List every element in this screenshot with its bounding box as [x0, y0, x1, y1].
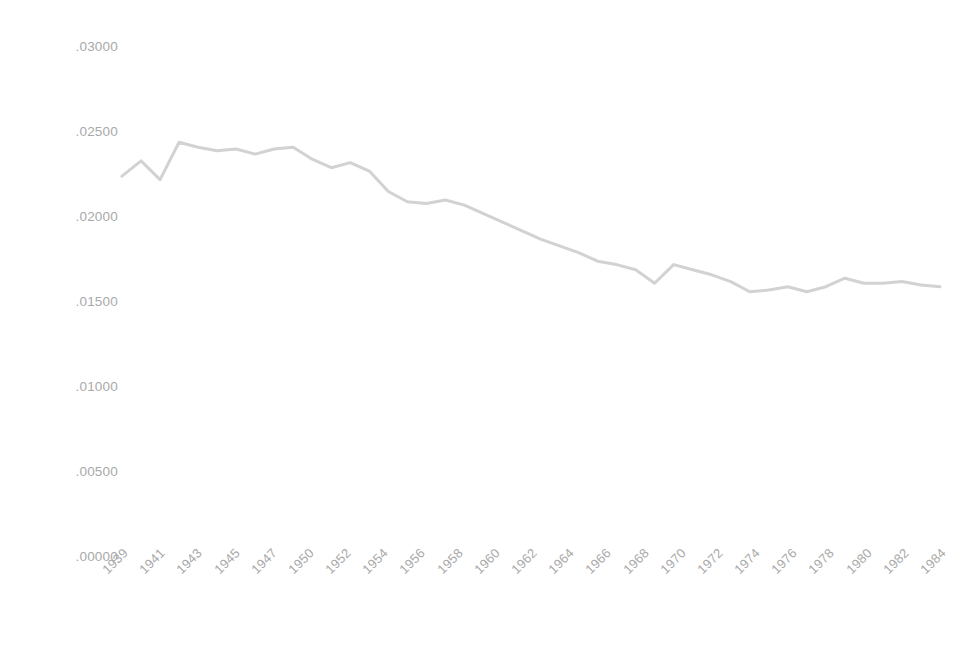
- x-axis-tick-label: 1954: [360, 546, 390, 576]
- x-axis-tick-label: 1952: [323, 546, 353, 576]
- x-axis-tick-label: 1964: [546, 546, 576, 576]
- x-axis-tick-label: 1970: [658, 546, 688, 576]
- x-axis-tick-label: 1945: [212, 546, 242, 576]
- line-chart: .03000.02500.02000.01500.01000.00500.000…: [0, 0, 980, 662]
- x-axis-tick-label: 1950: [286, 546, 316, 576]
- x-axis-tick-label: 1941: [137, 546, 167, 576]
- x-axis-tick-label: 1960: [472, 546, 502, 576]
- x-axis-tick-label: 1968: [621, 546, 651, 576]
- x-axis-tick-label: 1947: [249, 546, 279, 576]
- x-axis-tick-label: 1939: [100, 546, 130, 576]
- x-axis-tick-label: 1984: [918, 546, 948, 576]
- x-axis-tick-label: 1956: [397, 546, 427, 576]
- x-axis-tick-label: 1982: [881, 546, 911, 576]
- x-axis-tick-label: 1974: [732, 546, 762, 576]
- x-axis-tick-label: 1976: [769, 546, 799, 576]
- x-axis: 1939194119431945194719501952195419561958…: [0, 0, 980, 662]
- x-axis-tick-label: 1958: [435, 546, 465, 576]
- x-axis-tick-label: 1962: [509, 546, 539, 576]
- x-axis-tick-label: 1978: [806, 546, 836, 576]
- x-axis-tick-label: 1966: [583, 546, 613, 576]
- x-axis-tick-label: 1943: [174, 546, 204, 576]
- x-axis-tick-label: 1980: [844, 546, 874, 576]
- x-axis-tick-label: 1972: [695, 546, 725, 576]
